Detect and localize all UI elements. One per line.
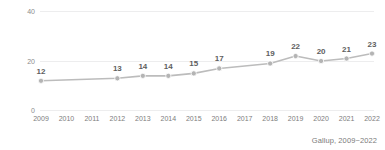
data-point-label: 14	[138, 62, 147, 71]
x-axis-tick-label: 2012	[110, 115, 126, 122]
data-point-label: 19	[266, 49, 275, 58]
data-point-marker[interactable]	[166, 73, 171, 78]
x-axis-tick-label: 2011	[84, 115, 99, 122]
data-point-marker[interactable]	[140, 73, 145, 78]
x-axis-tick-label: 2020	[313, 115, 329, 122]
x-axis-tick-label: 2009	[33, 115, 49, 122]
series-path-group	[41, 54, 372, 81]
x-axis-tick-label: 2010	[59, 115, 75, 122]
data-point-marker[interactable]	[293, 53, 298, 58]
source-note: Gallup, 2009~2022	[312, 136, 377, 145]
x-axis-tick-label: 2019	[288, 115, 304, 122]
y-axis-tick-label: 0	[31, 107, 35, 114]
x-axis-tick-label: 2017	[237, 115, 253, 122]
data-point-label: 14	[164, 62, 173, 71]
data-point-label: 22	[291, 42, 300, 51]
series-line	[41, 54, 372, 81]
data-point-label: 23	[368, 40, 377, 49]
data-point-marker[interactable]	[115, 76, 120, 81]
data-point-marker[interactable]	[318, 58, 323, 63]
x-axis-tick-label: 2014	[161, 115, 177, 122]
chart-plot-area: 02040 1213141415171922202123 20092010201…	[0, 0, 385, 150]
data-point-label: 20	[317, 47, 326, 56]
data-point-marker[interactable]	[38, 78, 43, 83]
x-axis-tick-label: 2022	[364, 115, 380, 122]
data-point-marker[interactable]	[369, 51, 374, 56]
data-point-marker[interactable]	[217, 66, 222, 71]
data-point-marker[interactable]	[344, 56, 349, 61]
x-axis-tick-label: 2021	[339, 115, 355, 122]
y-axis-labels-group: 02040	[27, 8, 35, 114]
y-axis-tick-label: 40	[27, 8, 35, 15]
x-axis-labels-group: 2009201020112012201320142015201620172018…	[33, 115, 380, 122]
data-point-label: 17	[215, 54, 224, 63]
x-axis-tick-label: 2015	[186, 115, 202, 122]
x-axis-tick-label: 2018	[262, 115, 278, 122]
data-point-marker[interactable]	[268, 61, 273, 66]
x-axis-tick-label: 2013	[135, 115, 151, 122]
data-point-label: 13	[113, 64, 122, 73]
x-axis-tick-label: 2016	[211, 115, 227, 122]
line-chart-figure: 02040 1213141415171922202123 20092010201…	[0, 0, 385, 150]
data-point-label: 15	[189, 59, 198, 68]
data-point-marker[interactable]	[191, 71, 196, 76]
data-point-label: 12	[37, 67, 46, 76]
y-axis-tick-label: 20	[27, 58, 35, 65]
data-point-label: 21	[342, 45, 351, 54]
